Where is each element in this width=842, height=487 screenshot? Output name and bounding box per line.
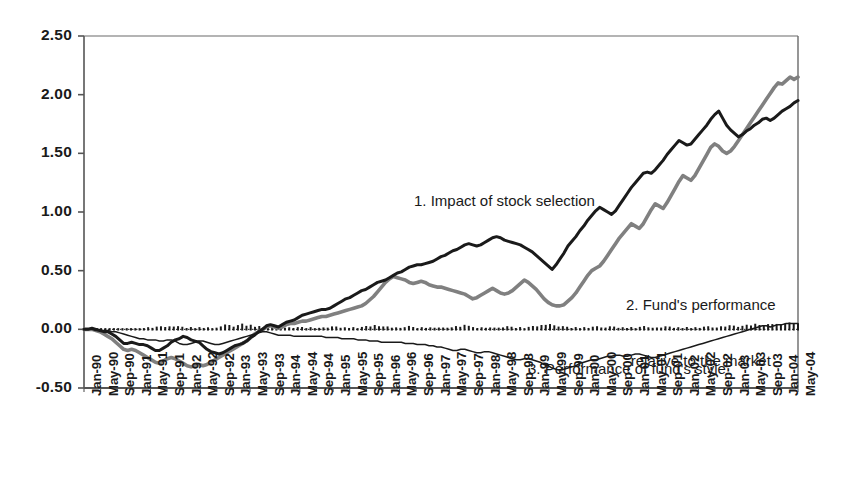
y-axis-tick-marks <box>78 36 84 388</box>
x-axis-tick-label: Jan-94 <box>288 355 303 396</box>
chart-canvas <box>0 0 842 487</box>
x-axis-tick-label: Sep-95 <box>371 353 386 396</box>
x-axis-tick-label: Jan-92 <box>189 355 204 396</box>
x-axis-tick-label: May-92 <box>205 352 220 396</box>
x-axis-tick-label: Jan-90 <box>89 355 104 396</box>
chart-figure: -0.500.000.501.001.502.002.50 Jan-90May-… <box>0 0 842 487</box>
y-axis-tick-label: 2.00 <box>41 85 72 103</box>
y-axis-tick-label: 2.50 <box>41 26 72 44</box>
y-axis-tick-label: -0.50 <box>36 378 72 396</box>
y-axis-tick-label: 0.50 <box>41 261 72 279</box>
x-axis-tick-label: May-91 <box>155 352 170 396</box>
x-axis-tick-label: Sep-92 <box>222 353 237 396</box>
x-axis-tick-label: Jan-91 <box>139 355 154 396</box>
x-axis-tick-label: Sep-97 <box>471 353 486 396</box>
x-axis-tick-label: May-97 <box>454 352 469 396</box>
annotation-stock-selection: 1. Impact of stock selection <box>414 192 595 211</box>
x-axis-tick-label: Jan-97 <box>438 355 453 396</box>
x-axis-tick-label: May-04 <box>803 352 818 396</box>
x-axis-tick-label: Sep-90 <box>122 353 137 396</box>
x-axis-tick-label: Jan-98 <box>488 355 503 396</box>
annotation-fund-style: 3. Performance of fund's style <box>528 360 726 379</box>
x-axis-tick-label: Sep-93 <box>272 353 287 396</box>
x-axis-tick-label: Sep-94 <box>321 353 336 396</box>
x-axis-tick-label: May-93 <box>255 352 270 396</box>
x-axis-tick-label: May-90 <box>106 352 121 396</box>
x-axis-tick-label: May-94 <box>305 352 320 396</box>
x-axis-tick-label: Sep-91 <box>172 353 187 396</box>
x-axis-tick-label: May-98 <box>504 352 519 396</box>
annotation-fund-performance-line1: 2. Fund's performance <box>626 296 776 315</box>
y-axis-tick-label: 1.00 <box>41 202 72 220</box>
x-axis-tick-label: May-96 <box>404 352 419 396</box>
x-axis-tick-label: Jan-96 <box>388 355 403 396</box>
annotation-fund-performance: 2. Fund's performance relative to the ma… <box>626 258 776 408</box>
x-axis-tick-label: Jan-04 <box>786 355 801 396</box>
x-axis-tick-label: May-95 <box>355 352 370 396</box>
x-axis-tick-label: Jan-93 <box>238 355 253 396</box>
y-axis-tick-label: 1.50 <box>41 143 72 161</box>
x-axis-tick-label: Jan-95 <box>338 355 353 396</box>
x-axis-tick-label: Sep-96 <box>421 353 436 396</box>
y-axis-tick-label: 0.00 <box>41 319 72 337</box>
